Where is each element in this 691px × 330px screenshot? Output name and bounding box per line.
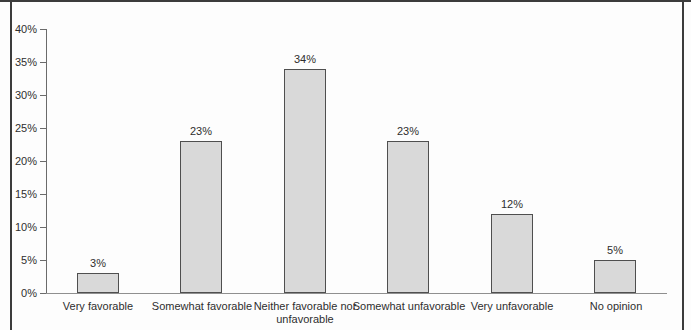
- bar-value-label: 23%: [372, 124, 444, 138]
- bar-2: [180, 141, 222, 293]
- y-axis-tick-label: 10%: [7, 221, 37, 233]
- bar-4: [387, 141, 429, 293]
- plot-area: 0%5%10%15%20%25%30%35%40%3%Very favorabl…: [0, 0, 691, 330]
- y-axis-tick: [40, 161, 46, 162]
- bar-5: [491, 214, 533, 293]
- y-axis-tick: [40, 293, 46, 294]
- bar-value-label: 12%: [476, 197, 548, 211]
- y-axis-tick: [40, 194, 46, 195]
- bar-3: [284, 69, 326, 293]
- bar-value-label: 3%: [62, 256, 134, 270]
- y-axis-tick-label: 40%: [7, 23, 37, 35]
- x-axis-line: [46, 293, 667, 294]
- category-label: Very unfavorable: [455, 300, 569, 313]
- y-axis-tick-label: 5%: [7, 254, 37, 266]
- bar-value-label: 34%: [269, 52, 341, 66]
- y-axis-tick: [40, 227, 46, 228]
- y-axis-tick: [40, 29, 46, 30]
- bar-6: [594, 260, 636, 293]
- bar-value-label: 23%: [165, 124, 237, 138]
- category-label: Neither favorable nor unfavorable: [248, 300, 362, 326]
- category-label: Somewhat unfavorable: [352, 300, 466, 313]
- y-axis-tick-label: 20%: [7, 155, 37, 167]
- bar-1: [77, 273, 119, 293]
- y-axis-tick-label: 15%: [7, 188, 37, 200]
- figure-frame: 0%5%10%15%20%25%30%35%40%3%Very favorabl…: [0, 0, 691, 330]
- bar-value-label: 5%: [579, 243, 651, 257]
- category-label: Very favorable: [41, 300, 155, 313]
- y-axis-tick-label: 30%: [7, 89, 37, 101]
- y-axis-tick: [40, 260, 46, 261]
- y-axis-tick-label: 35%: [7, 56, 37, 68]
- y-axis-tick: [40, 128, 46, 129]
- y-axis-tick-label: 0%: [7, 287, 37, 299]
- category-label: No opinion: [559, 300, 673, 313]
- category-label: Somewhat favorable: [145, 300, 259, 313]
- y-axis-tick-label: 25%: [7, 122, 37, 134]
- y-axis-tick: [40, 62, 46, 63]
- y-axis-tick: [40, 95, 46, 96]
- y-axis-line: [46, 29, 47, 294]
